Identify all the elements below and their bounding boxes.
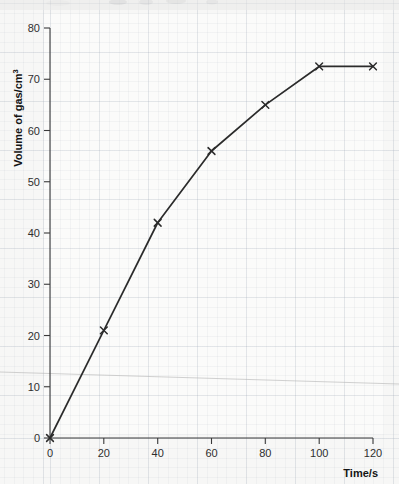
x-tick-label-120: 120 (364, 447, 382, 459)
gas-volume-time-chart: 0 10 20 30 40 50 60 70 80 0 20 40 60 80 (0, 0, 399, 484)
y-axis-title-base: Volume of gas/cm (12, 73, 24, 167)
chart-plot-area: 0 10 20 30 40 50 60 70 80 0 20 40 60 80 (0, 0, 399, 484)
y-tick-label-40: 40 (28, 227, 40, 239)
x-tick-label-40: 40 (152, 447, 164, 459)
y-tick-label-0: 0 (34, 432, 40, 444)
data-point-markers (47, 63, 377, 441)
x-tick-label-60: 60 (205, 447, 217, 459)
y-axis-title-group: Volume of gas/cm3 (11, 69, 24, 167)
y-tick-label-60: 60 (28, 125, 40, 137)
y-axis-ticks (44, 28, 50, 438)
y-axis-tick-labels: 0 10 20 30 40 50 60 70 80 (28, 22, 40, 444)
y-tick-label-50: 50 (28, 176, 40, 188)
y-axis-title-exponent: 3 (11, 69, 20, 73)
data-series-line (50, 66, 373, 438)
y-tick-label-70: 70 (28, 73, 40, 85)
x-tick-label-20: 20 (98, 447, 110, 459)
y-tick-label-30: 30 (28, 278, 40, 290)
y-tick-label-10: 10 (28, 381, 40, 393)
x-axis-ticks (50, 438, 373, 444)
x-tick-label-80: 80 (259, 447, 271, 459)
x-axis-tick-labels: 0 20 40 60 80 100 120 (47, 447, 382, 459)
y-tick-label-20: 20 (28, 330, 40, 342)
y-tick-label-80: 80 (28, 22, 40, 34)
x-tick-label-100: 100 (310, 447, 328, 459)
x-axis-title: Time/s (343, 467, 378, 479)
axes (50, 28, 373, 438)
x-tick-label-0: 0 (47, 447, 53, 459)
y-axis-title: Volume of gas/cm3 (11, 69, 24, 167)
